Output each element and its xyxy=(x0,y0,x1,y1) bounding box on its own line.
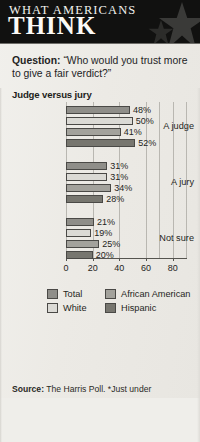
source-label: Source: xyxy=(12,384,44,394)
legend-label: African American xyxy=(121,289,190,299)
chart-subtitle: Judge versus jury xyxy=(12,89,92,100)
bar-value-label: 50% xyxy=(136,116,154,126)
bar-value-label: 28% xyxy=(106,194,124,204)
body: Question: “Who would you trust more to g… xyxy=(0,44,200,398)
x-axis-tick xyxy=(119,258,120,261)
x-axis-tick xyxy=(93,258,94,261)
bar-value-label: 31% xyxy=(110,172,128,182)
x-axis-tick xyxy=(173,258,174,261)
bar-value-label: 21% xyxy=(97,217,115,227)
bar-value-label: 52% xyxy=(138,138,156,148)
group-label: Not sure xyxy=(159,233,194,243)
bar-value-label: 19% xyxy=(94,228,112,238)
question-label: Question: xyxy=(12,55,61,66)
legend-swatch xyxy=(47,303,58,313)
bar-value-label: 41% xyxy=(124,127,142,137)
legend-swatch xyxy=(105,303,116,313)
x-axis-tick-label: 0 xyxy=(63,263,68,273)
bar-value-label: 25% xyxy=(102,239,120,249)
bar xyxy=(66,251,93,259)
bar xyxy=(66,106,130,114)
legend-label: Hispanic xyxy=(121,303,156,313)
legend-item: White xyxy=(47,303,87,313)
x-axis-tick xyxy=(146,258,147,261)
chart-legend: TotalWhiteAfrican AmericanHispanic xyxy=(47,289,193,321)
bar-chart: 020406080 48%50%41%52%A judge31%31%34%28… xyxy=(0,102,200,282)
x-axis-tick-label: 40 xyxy=(114,263,124,273)
bar xyxy=(66,162,107,170)
source-note: Source: The Harris Poll. *Just under xyxy=(12,384,200,394)
legend-swatch xyxy=(47,289,58,299)
source-body: The Harris Poll. *Just under xyxy=(44,384,151,394)
x-axis-tick-label: 20 xyxy=(88,263,98,273)
bar xyxy=(66,139,135,147)
legend-item: Hispanic xyxy=(105,303,156,313)
bar xyxy=(66,240,99,248)
bar-value-label: 34% xyxy=(114,183,132,193)
header-banner: WHAT AMERICANS THINK xyxy=(0,0,200,44)
x-axis-tick-label: 60 xyxy=(141,263,151,273)
legend-item: Total xyxy=(47,289,82,299)
bar xyxy=(66,173,107,181)
bar xyxy=(66,229,91,237)
bar-value-label: 48% xyxy=(133,105,151,115)
group-label: A judge xyxy=(163,121,194,131)
legend-swatch xyxy=(105,289,116,299)
legend-item: African American xyxy=(105,289,190,299)
bar xyxy=(66,184,111,192)
legend-label: Total xyxy=(63,289,82,299)
bar-value-label: 20% xyxy=(96,250,114,260)
bar xyxy=(66,128,121,136)
group-label: A jury xyxy=(171,177,194,187)
bar-value-label: 31% xyxy=(110,161,128,171)
header-title-line2: THINK xyxy=(8,13,96,38)
bar xyxy=(66,218,94,226)
bar xyxy=(66,117,133,125)
legend-label: White xyxy=(63,303,87,313)
bar xyxy=(66,195,103,203)
question-text: Question: “Who would you trust more to g… xyxy=(12,54,192,81)
x-axis-tick-label: 80 xyxy=(168,263,178,273)
